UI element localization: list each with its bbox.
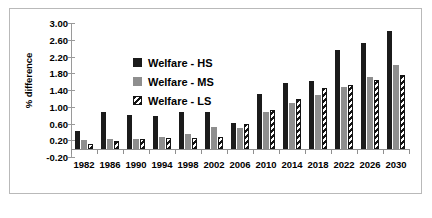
x-axis-tick-label: 2022 (333, 159, 354, 170)
y-axis-tick-label: 1.80 (24, 68, 68, 79)
x-axis-tick-label: 2018 (307, 159, 328, 170)
y-axis-tick-mark (68, 124, 75, 125)
x-axis-tick-mark (331, 149, 332, 154)
y-axis-tick-label: 1.40 (24, 85, 68, 96)
bar-group (305, 23, 331, 157)
chart-page-frame: % difference 3.002.602.201.801.401.000.6… (9, 8, 422, 194)
bar (263, 112, 268, 148)
bar (237, 128, 242, 149)
y-axis-tick-label: 0.20 (24, 135, 68, 146)
bar (153, 116, 158, 149)
bar-group (383, 23, 409, 157)
x-axis-tick-mark (227, 149, 228, 154)
bar (361, 43, 366, 149)
x-axis-tick-label: 1998 (177, 159, 198, 170)
x-axis-tick-mark (97, 149, 98, 154)
x-axis-tick-label: 2030 (385, 159, 406, 170)
bar (309, 81, 314, 149)
x-axis-tick-label: 2002 (203, 159, 224, 170)
bar (185, 134, 190, 149)
x-axis-tick-mark (149, 149, 150, 154)
y-axis-tick-label: 3.00 (24, 18, 68, 29)
bar (335, 50, 340, 148)
bar (114, 141, 119, 149)
x-axis-tick-mark (71, 149, 72, 154)
x-axis-tick-mark (357, 149, 358, 154)
y-axis-tick-mark (68, 40, 75, 41)
bar (257, 94, 262, 149)
bar-group (331, 23, 357, 157)
bar (75, 131, 80, 149)
legend-item: Welfare - MS (133, 72, 253, 91)
x-axis-tick-label: 2026 (359, 159, 380, 170)
chart-legend: Welfare - HSWelfare - MSWelfare - LS (133, 53, 253, 110)
bar (400, 75, 405, 148)
bar (315, 95, 320, 149)
bar (393, 65, 398, 149)
bar-group (279, 23, 305, 157)
y-axis-tick-label: 1.00 (24, 101, 68, 112)
x-axis-tick-mark (253, 149, 254, 154)
x-axis-tick-labels: 1982198619901994199820022006201020142018… (71, 159, 409, 175)
solid-black-swatch (133, 58, 142, 67)
legend-item-label: Welfare - MS (148, 76, 214, 88)
bar (159, 137, 164, 148)
bar (133, 139, 138, 149)
bar (81, 140, 86, 149)
x-axis-tick-label: 1994 (151, 159, 172, 170)
bar (127, 115, 132, 149)
bar (367, 77, 372, 149)
y-axis-tick-labels: 3.002.602.201.801.401.000.600.20-0.20 (24, 23, 68, 157)
bar (101, 112, 106, 148)
bar (218, 137, 223, 149)
bar (244, 124, 249, 148)
x-axis-tick-mark (279, 149, 280, 154)
legend-item-label: Welfare - LS (148, 95, 211, 107)
x-axis-tick-mark (175, 149, 176, 154)
bar (387, 31, 392, 148)
bar (88, 144, 93, 149)
bar (289, 103, 294, 148)
y-axis-tick-label: 2.20 (24, 51, 68, 62)
bar (296, 99, 301, 148)
y-axis-tick-mark (68, 73, 75, 74)
bar (283, 83, 288, 148)
y-axis-tick-label: 2.60 (24, 34, 68, 45)
y-axis-tick-mark (68, 90, 75, 91)
bar-group (357, 23, 383, 157)
hatched-swatch (133, 96, 142, 105)
bar (107, 139, 112, 148)
solid-gray-swatch (133, 77, 142, 86)
y-axis-tick-mark (68, 23, 75, 24)
legend-item: Welfare - LS (133, 91, 253, 110)
legend-item: Welfare - HS (133, 53, 253, 72)
x-axis-tick-mark (383, 149, 384, 154)
y-axis-tick-label: -0.20 (24, 152, 68, 163)
legend-item-label: Welfare - HS (148, 57, 213, 69)
x-axis-tick-mark (409, 149, 410, 154)
bar (270, 110, 275, 149)
y-axis-tick-mark (68, 57, 75, 58)
bar (166, 138, 171, 148)
bar (140, 139, 145, 148)
x-axis-tick-label: 1982 (73, 159, 94, 170)
x-axis-tick-label: 1990 (125, 159, 146, 170)
y-axis-tick-mark (68, 107, 75, 108)
x-axis-tick-label: 2010 (255, 159, 276, 170)
x-axis-tick-mark (305, 149, 306, 154)
bar (348, 85, 353, 149)
y-axis-tick-mark (68, 157, 75, 158)
bar (322, 88, 327, 148)
x-axis-tick-label: 2014 (281, 159, 302, 170)
bar (374, 80, 379, 148)
bar (179, 112, 184, 148)
bar-chart: % difference 3.002.602.201.801.401.000.6… (10, 9, 423, 195)
bar (192, 138, 197, 148)
x-axis-tick-label: 1986 (99, 159, 120, 170)
bar (211, 127, 216, 149)
bar-group (97, 23, 123, 157)
y-axis-tick-label: 0.60 (24, 118, 68, 129)
bar (205, 112, 210, 148)
x-axis-tick-mark (201, 149, 202, 154)
bar (341, 87, 346, 149)
